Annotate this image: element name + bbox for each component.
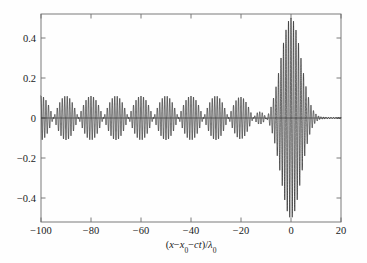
x-tick-label: 20 — [336, 225, 347, 236]
y-tick-label: 0.4 — [23, 33, 37, 44]
y-tick-labels-group: 0.40.20−0.2−0.4 — [17, 33, 37, 204]
x-tick-label: −100 — [30, 225, 52, 236]
figure-canvas: −100−80−60−40−20020 0.40.20−0.2−0.4 (x−x… — [0, 0, 367, 263]
x-tick-label: 0 — [288, 225, 293, 236]
x-tick-labels-group: −100−80−60−40−20020 — [30, 225, 346, 236]
x-tick-label: −60 — [133, 225, 149, 236]
x-tick-label: −20 — [233, 225, 249, 236]
x-axis-label: (x−x0−ct)/λ0 — [166, 239, 217, 255]
plot-svg: −100−80−60−40−20020 0.40.20−0.2−0.4 (x−x… — [0, 0, 367, 263]
x-tick-label: −40 — [183, 225, 199, 236]
y-tick-label: 0 — [31, 113, 36, 124]
y-tick-label: −0.2 — [17, 153, 36, 164]
x-tick-label: −80 — [83, 225, 99, 236]
y-tick-label: −0.4 — [17, 193, 37, 204]
y-tick-label: 0.2 — [23, 73, 36, 84]
